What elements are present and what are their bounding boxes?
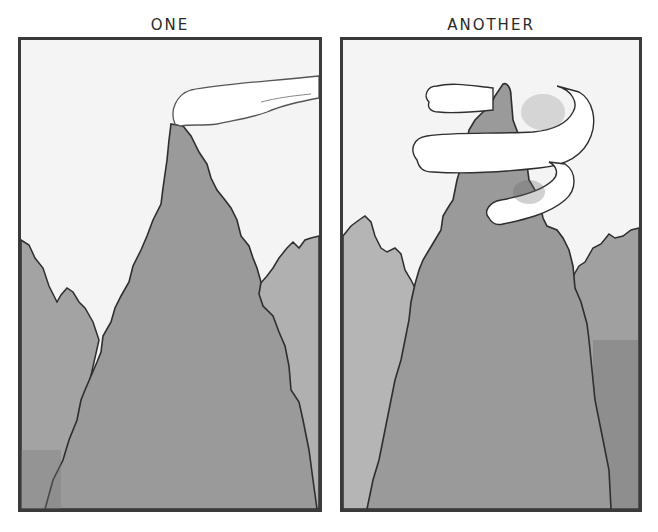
panel-title-another: ANOTHER bbox=[340, 16, 642, 36]
mountain-illustration-one bbox=[21, 40, 319, 509]
panel-another bbox=[340, 37, 642, 512]
mountain-illustration-another bbox=[343, 40, 639, 509]
panel-one bbox=[18, 37, 322, 512]
spiral-cloud-top bbox=[426, 84, 493, 113]
panel-title-one: ONE bbox=[18, 16, 322, 36]
